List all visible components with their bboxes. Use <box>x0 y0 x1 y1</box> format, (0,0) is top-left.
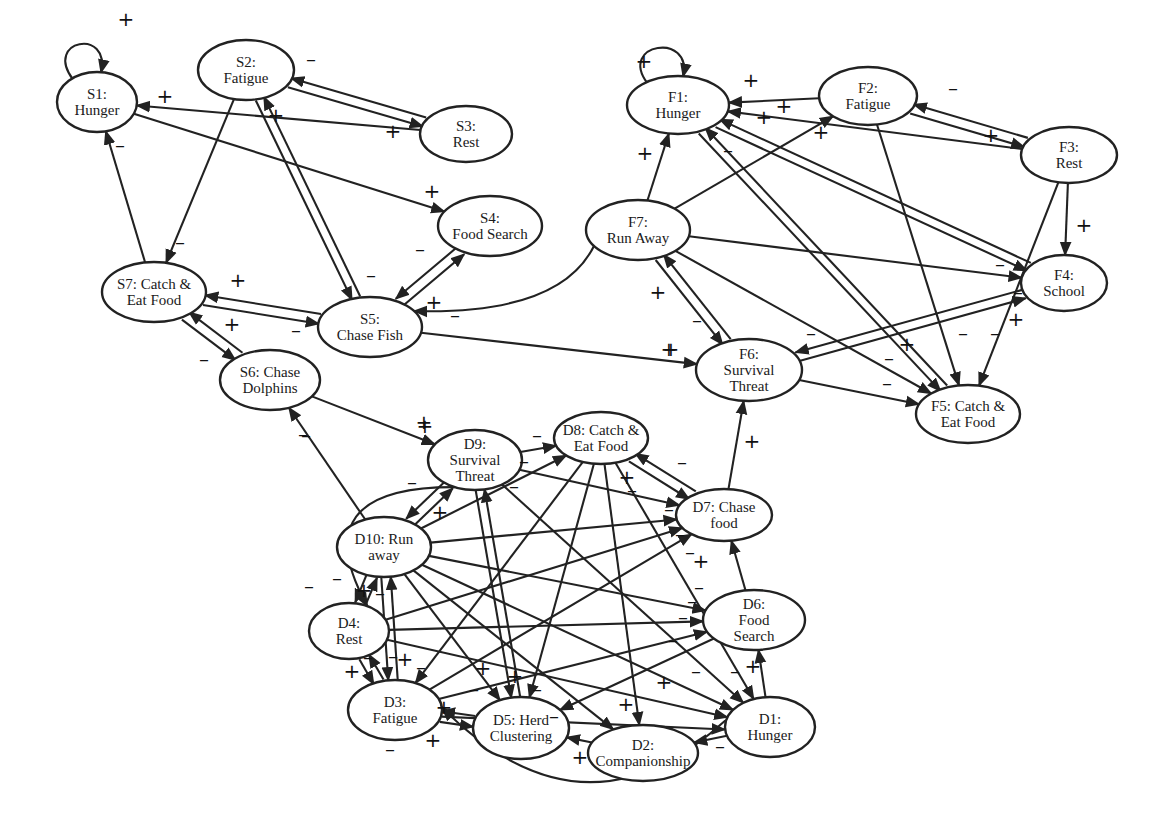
minus-sign-label: – <box>675 522 685 546</box>
node-label: Threat <box>729 378 769 394</box>
edge-s3-to-s2 <box>291 78 426 117</box>
node-label: Fatigue <box>846 96 891 112</box>
node-label: Hunger <box>656 105 701 121</box>
node-label: Food <box>739 612 770 628</box>
minus-sign-label: – <box>332 566 342 590</box>
plus-sign-label: + <box>157 84 174 108</box>
edge-s5-to-s7 <box>205 295 321 314</box>
minus-sign-label: – <box>678 605 688 629</box>
nodes-layer: S1:HungerS2:FatigueS3:RestS4:Food Search… <box>57 40 1117 781</box>
edge-s5-to-f6 <box>421 333 697 364</box>
minus-sign-label: – <box>115 133 125 157</box>
edge-d7-to-f6 <box>728 401 743 489</box>
node-label: D10: Run <box>355 531 414 547</box>
minus-sign-label: – <box>509 474 519 498</box>
minus-sign-label: – <box>549 704 559 728</box>
minus-sign-label: – <box>715 734 725 758</box>
causal-diagram: S1:HungerS2:FatigueS3:RestS4:Food Search… <box>0 0 1165 823</box>
edge-f6-to-f5 <box>799 380 919 404</box>
node-label: Fatigue <box>224 70 269 86</box>
plus-sign-label: + <box>1076 213 1093 237</box>
minus-sign-label: – <box>691 659 701 683</box>
minus-sign-label: – <box>958 321 968 345</box>
edge-f3-to-f2 <box>914 104 1028 138</box>
plus-sign-label: + <box>983 123 1000 147</box>
minus-sign-label: – <box>519 449 529 473</box>
edge-s5-to-s2 <box>264 97 360 296</box>
minus-sign-label: – <box>450 303 460 327</box>
node-f5: F5: Catch &Eat Food <box>916 385 1020 443</box>
minus-sign-label: – <box>664 497 674 521</box>
node-label: D3: <box>384 694 407 710</box>
edge-f3-to-f4 <box>1065 183 1068 255</box>
edge-d9-to-d7 <box>519 470 679 505</box>
plus-sign-label: + <box>436 695 453 719</box>
node-f3: F3:Rest <box>1021 127 1117 183</box>
node-label: D7: Chase <box>693 499 756 515</box>
plus-sign-label: + <box>417 414 434 438</box>
node-label: Hunger <box>748 727 793 743</box>
node-label: Run Away <box>607 230 670 246</box>
node-label: D1: <box>759 711 782 727</box>
node-d1: D1:Hunger <box>725 697 815 757</box>
node-label: F4: <box>1054 267 1074 283</box>
node-label: Clustering <box>490 728 553 744</box>
node-d6: D6:FoodSearch <box>703 590 805 650</box>
node-label: Search <box>734 628 775 644</box>
node-label: Rest <box>1056 155 1084 171</box>
plus-sign-label: + <box>432 500 449 524</box>
plus-sign-label: + <box>118 7 135 31</box>
node-label: F3: <box>1059 139 1079 155</box>
minus-sign-label: – <box>806 321 816 345</box>
node-label: Survival <box>724 362 775 378</box>
plus-sign-label: + <box>397 647 414 671</box>
plus-sign-label: + <box>756 105 773 129</box>
plus-sign-label: + <box>637 141 654 165</box>
node-f4: F4:School <box>1021 255 1107 311</box>
node-label: D2: <box>632 737 655 753</box>
plus-sign-label: + <box>1008 307 1025 331</box>
node-f2: F2:Fatigue <box>819 67 917 125</box>
plus-sign-label: + <box>813 120 830 144</box>
plus-sign-label: + <box>385 119 402 143</box>
minus-sign-label: – <box>363 645 373 669</box>
plus-sign-label: + <box>344 659 361 683</box>
node-s5: S5:Chase Fish <box>318 297 422 357</box>
node-label: S2: <box>236 54 256 70</box>
minus-sign-label: – <box>882 371 892 395</box>
node-d9: D9:SurvivalThreat <box>428 430 522 490</box>
minus-sign-label: – <box>995 252 1005 276</box>
plus-sign-label: + <box>572 745 589 769</box>
minus-sign-label: – <box>948 76 958 100</box>
node-d10: D10: Runaway <box>337 517 431 577</box>
node-label: S1: <box>87 86 107 102</box>
node-label: S3: <box>456 118 476 134</box>
plus-sign-label: + <box>268 103 285 127</box>
node-label: food <box>710 515 738 531</box>
minus-sign-label: – <box>692 308 702 332</box>
plus-sign-label: + <box>426 290 443 314</box>
edge-d10-to-d5 <box>404 574 499 700</box>
node-label: Threat <box>455 468 495 484</box>
node-label: S5: <box>360 311 380 327</box>
node-label: D4: <box>338 615 361 631</box>
node-label: Rest <box>453 134 481 150</box>
node-d4: D4:Rest <box>309 603 389 659</box>
minus-sign-label: – <box>687 589 697 613</box>
minus-sign-label: – <box>385 737 395 761</box>
plus-sign-label: + <box>745 654 762 678</box>
minus-sign-label: – <box>175 230 185 254</box>
plus-sign-label: + <box>899 332 916 356</box>
node-label: Hunger <box>75 102 120 118</box>
plus-sign-label: + <box>650 280 667 304</box>
plus-sign-label: + <box>743 68 760 92</box>
node-label: Fatigue <box>373 710 418 726</box>
node-d2: D2:Companionship <box>588 725 698 781</box>
node-s6: S6: ChaseDolphins <box>220 350 320 410</box>
node-label: S6: Chase <box>240 364 301 380</box>
edge-f7-to-f4 <box>689 236 1022 277</box>
node-label: Food Search <box>452 226 528 242</box>
edge-d6-to-d7 <box>731 541 745 591</box>
edge-f1-to-f4 <box>716 127 1027 271</box>
node-f1: F1:Hunger <box>627 76 729 134</box>
